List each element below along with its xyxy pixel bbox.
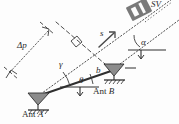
antenna-b-name: B <box>109 86 115 96</box>
baseline-label: b <box>96 66 101 75</box>
delta-p-label: Δp <box>17 41 27 50</box>
antenna-a-label: Ant A <box>22 110 43 119</box>
alpha-angle-label: α <box>141 38 146 47</box>
delta-p-arrow <box>6 27 49 78</box>
diagram-vector-layer <box>0 0 179 124</box>
alpha-angle-arc <box>134 35 140 47</box>
sv-label: SV <box>151 0 161 9</box>
slant-range-label: s <box>100 29 104 38</box>
antenna-b-prefix: Ant <box>93 86 109 96</box>
right-angle-icon <box>71 36 82 47</box>
theta-angle-label: θ <box>79 76 83 85</box>
antenna-b-label: Ant B <box>93 87 114 96</box>
figure-canvas: Δp s α γ θ b SV Ant A Ant B <box>0 0 179 124</box>
horizontal-reference-b <box>128 50 166 59</box>
gamma-angle-label: γ <box>59 60 63 69</box>
antenna-b-symbol <box>104 64 136 84</box>
antenna-a-prefix: Ant <box>22 109 38 119</box>
antenna-a-name: A <box>38 109 44 119</box>
line-of-sight-a <box>38 0 179 96</box>
